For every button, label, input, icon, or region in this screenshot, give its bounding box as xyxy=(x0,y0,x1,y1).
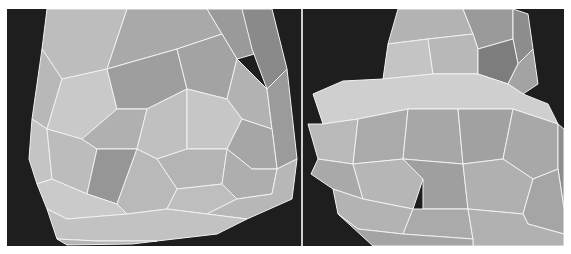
mesh-facet xyxy=(383,39,433,79)
mesh-wireframe-right xyxy=(303,9,564,246)
mesh-facet xyxy=(428,34,478,74)
mesh-facet xyxy=(308,119,358,164)
mesh-facet xyxy=(403,109,463,164)
mesh-panel-left xyxy=(7,9,301,246)
mesh-wireframe-left xyxy=(7,9,301,246)
mesh-render-figure xyxy=(7,9,564,246)
mesh-panel-right xyxy=(303,9,564,246)
